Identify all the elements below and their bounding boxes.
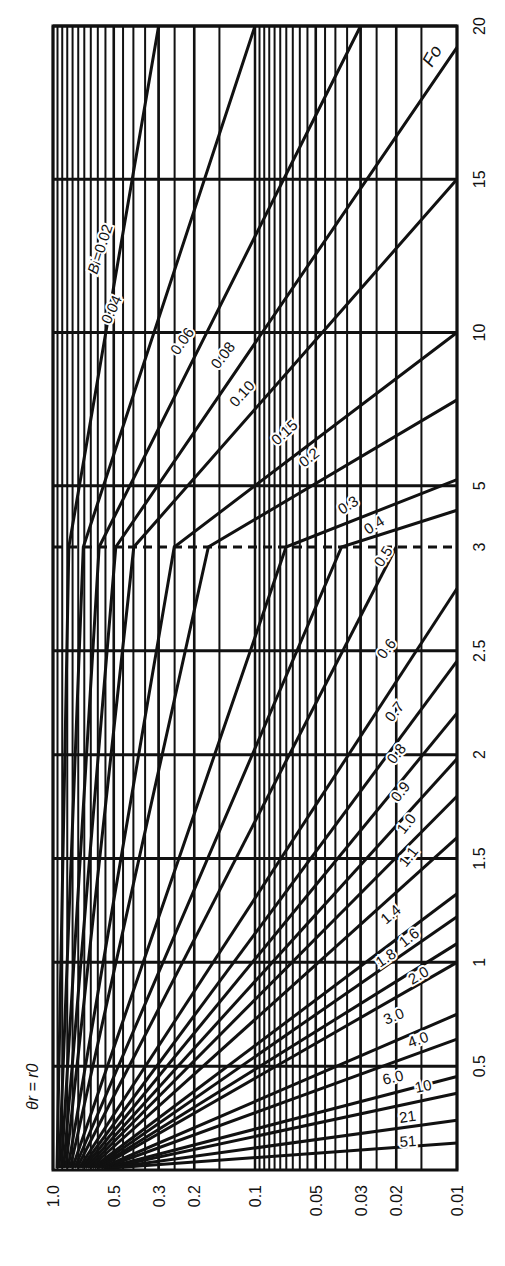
y-tick-label: 3	[471, 542, 488, 551]
y-tick-label: 20	[471, 17, 488, 35]
bi-label: 10	[413, 1076, 433, 1096]
bi-label: 0.9	[387, 778, 413, 805]
bi-label: 0.3	[335, 492, 362, 517]
y-tick-label: 15	[471, 170, 488, 188]
x-tick-label: 1.0	[45, 1185, 62, 1207]
bi-label: 1.1	[395, 843, 421, 870]
bi-curve-1.6	[94, 917, 457, 1168]
bi-label: 0.7	[381, 698, 407, 725]
bi-label: 51	[399, 1132, 417, 1150]
heisler-chart: 1.00.50.30.20.10.050.030.020.010.511.522…	[0, 0, 505, 1266]
bi-label: 0.10	[226, 377, 258, 410]
bi-label: 0.04	[97, 293, 125, 327]
x-tick-label: 0.1	[247, 1185, 264, 1207]
y-tick-label: 1	[471, 958, 488, 967]
y-tick-label: 2.5	[471, 640, 488, 662]
x-tick-label: 0.01	[449, 1185, 466, 1216]
y-tick-label: 1.5	[471, 847, 488, 869]
bi-label: 1.6	[395, 924, 422, 950]
corner-label: θr = r0	[24, 1063, 41, 1110]
x-tick-label: 0.02	[388, 1185, 405, 1216]
x-tick-label: 0.3	[151, 1185, 168, 1207]
y-tick-label: 10	[471, 323, 488, 341]
bi-label: 4.0	[405, 1028, 430, 1051]
x-tick-label: 0.03	[353, 1185, 370, 1216]
y-tick-label: 5	[471, 481, 488, 490]
bi-label: 6.0	[381, 1066, 405, 1088]
y-tick-label: 2	[471, 750, 488, 759]
y-tick-label: 0.5	[471, 1055, 488, 1077]
bi-label: 0.15	[268, 416, 301, 448]
bi-label: 2.0	[405, 962, 432, 987]
bi-label: 3.0	[381, 1004, 407, 1028]
bi-label: 0.08	[207, 338, 238, 371]
bi-label: 0.8	[383, 740, 409, 767]
x-tick-label: 0.5	[106, 1185, 123, 1207]
bi-label: 0.06	[167, 324, 198, 358]
x-tick-label: 0.05	[308, 1185, 325, 1216]
bi-label: 21	[398, 1107, 417, 1126]
x-tick-label: 0.2	[186, 1185, 203, 1207]
bi-label: Bi=0.02	[84, 222, 116, 276]
